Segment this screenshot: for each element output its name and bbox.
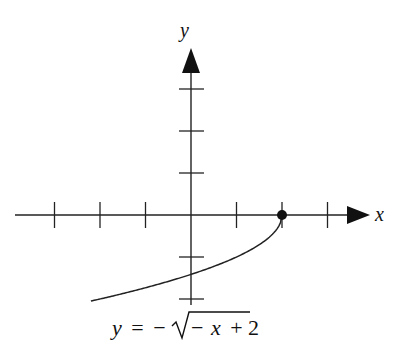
y-arrow-icon	[182, 48, 200, 73]
svg-text:− x + 2: − x + 2	[191, 315, 259, 340]
endpoint-dot	[277, 210, 287, 220]
svg-text:y = −: y = −	[110, 315, 166, 340]
x-axis-label: x	[374, 203, 384, 225]
x-arrow-icon	[347, 206, 370, 224]
function-curve	[91, 215, 282, 301]
axes	[15, 48, 370, 305]
y-axis-label: y	[178, 19, 189, 42]
equation-label: y = − − x + 2	[110, 312, 259, 340]
graph-canvas: x y y = − − x + 2	[0, 0, 393, 356]
